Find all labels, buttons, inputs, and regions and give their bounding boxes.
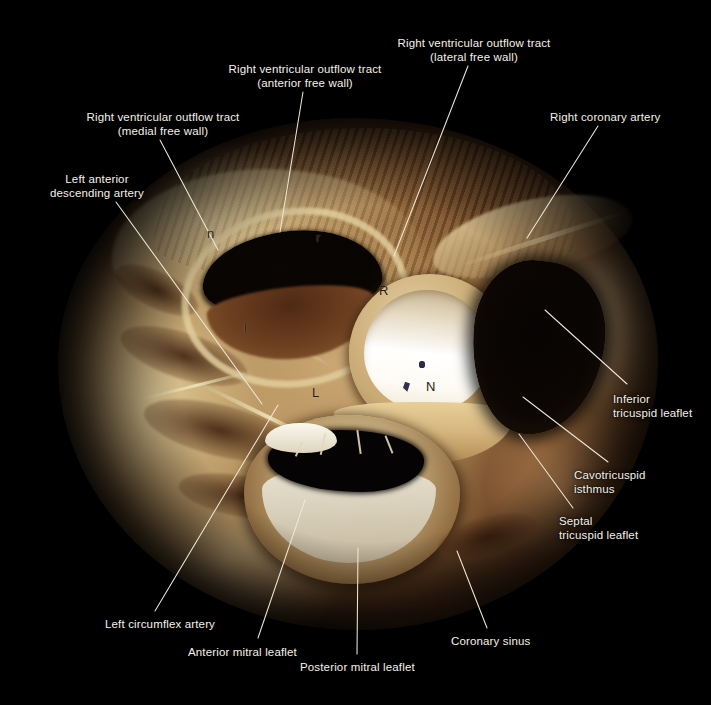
valve-marker-aortic-left-coronary-cusp: L — [312, 385, 319, 400]
label-right-coronary-artery: Right coronary artery — [550, 110, 661, 124]
valve-marker-pulmonary-non-facing-cusp: n — [207, 226, 214, 241]
label-rvot-medial: Right ventricular outflow tract (medial … — [87, 110, 240, 138]
figure-canvas: Right ventricular outflow tract (lateral… — [0, 0, 711, 705]
label-coronary-sinus: Coronary sinus — [451, 634, 530, 648]
valve-marker-pulmonary-left-facing-cusp: l — [244, 320, 247, 335]
label-anterior-mitral-leaflet: Anterior mitral leaflet — [188, 645, 297, 659]
valve-marker-aortic-right-coronary-cusp: R — [379, 283, 388, 298]
label-septal-tricuspid-leaflet: Septal tricuspid leaflet — [559, 514, 638, 542]
aortic-valve-dark-speck-a — [419, 361, 425, 368]
label-left-circumflex-artery: Left circumflex artery — [105, 617, 215, 631]
valve-marker-pulmonary-right-facing-cusp: r — [316, 230, 320, 245]
label-rvot-anterior: Right ventricular outflow tract (anterio… — [229, 62, 382, 90]
valve-marker-aortic-non-coronary-cusp: N — [426, 379, 435, 394]
anterior-mitral-leaflet-tissue — [265, 423, 337, 454]
label-posterior-mitral-leaflet: Posterior mitral leaflet — [300, 660, 415, 674]
label-left-anterior-descending-artery: Left anterior descending artery — [50, 172, 144, 200]
label-rvot-lateral: Right ventricular outflow tract (lateral… — [398, 36, 551, 64]
label-inferior-tricuspid-leaflet: Inferior tricuspid leaflet — [613, 392, 692, 420]
label-cavotricuspid-isthmus: Cavotricuspid isthmus — [574, 468, 646, 496]
heart-specimen-photograph — [58, 118, 658, 630]
